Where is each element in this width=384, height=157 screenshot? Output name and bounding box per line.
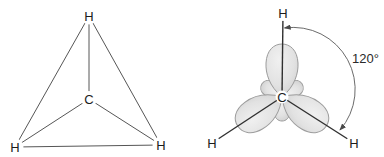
right-diagram: H H H C 120° bbox=[204, 5, 379, 151]
hydrogen-label-bottom-left: H bbox=[10, 140, 19, 155]
molecular-geometry-figure: H H H C bbox=[0, 0, 384, 157]
carbon-label: C bbox=[277, 90, 286, 105]
hydrogen-label-bottom-right: H bbox=[156, 138, 165, 153]
bond-c-to-bottomright-h bbox=[89, 99, 161, 145]
triangle-edge-bottom bbox=[15, 145, 161, 147]
triangle-edge-top-to-bottomright bbox=[89, 16, 161, 145]
bond-c-to-bottomleft-h bbox=[15, 99, 89, 147]
hydrogen-label-top: H bbox=[84, 9, 93, 24]
hydrogen-label-bottom-left: H bbox=[207, 136, 216, 151]
triangle-edge-top-to-bottomleft bbox=[15, 16, 89, 147]
left-diagram: H H H C bbox=[7, 8, 170, 156]
figure-svg: H H H C bbox=[0, 0, 384, 157]
bond-c-to-top-h bbox=[282, 13, 283, 97]
hydrogen-label-bottom-right: H bbox=[349, 136, 358, 151]
angle-label: 120° bbox=[352, 51, 379, 66]
hydrogen-label-top: H bbox=[278, 6, 287, 21]
carbon-label: C bbox=[84, 92, 93, 107]
